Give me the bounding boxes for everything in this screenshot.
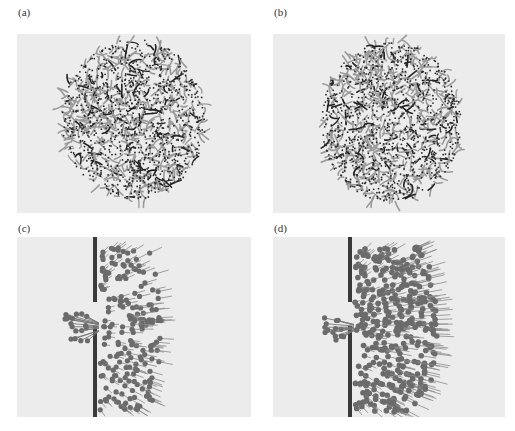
panel-c-label: (c) bbox=[18, 222, 30, 234]
panel-d bbox=[273, 237, 505, 417]
panel-a-label: (a) bbox=[18, 6, 30, 18]
panel-c bbox=[17, 237, 251, 417]
panel-a bbox=[17, 34, 251, 213]
tangled-cluster-image bbox=[273, 34, 505, 213]
wall-array-image bbox=[273, 237, 505, 417]
tangled-cluster-image bbox=[17, 34, 251, 213]
panel-d-label: (d) bbox=[274, 222, 287, 234]
panel-b-label: (b) bbox=[274, 6, 287, 18]
panel-b bbox=[273, 34, 505, 213]
wall-array-image bbox=[17, 237, 251, 417]
